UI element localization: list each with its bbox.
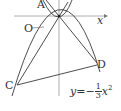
- equation-label: y=−13x2: [70, 83, 112, 100]
- label-O: O: [24, 23, 33, 34]
- label-C: C: [5, 80, 13, 91]
- eq-denominator: 3: [95, 92, 102, 100]
- line-C-D: [17, 65, 97, 85]
- line-A-D: [46, 0, 97, 63]
- origin-point: [58, 15, 61, 18]
- eq-fraction: 13: [95, 83, 102, 100]
- label-D: D: [97, 59, 106, 70]
- origin-leader-line: [32, 27, 44, 28]
- parabola-diagram: A O x C D y=−13x2: [0, 0, 121, 111]
- eq-sign: −: [85, 85, 94, 98]
- label-x-axis: x: [97, 15, 103, 26]
- eq-exponent: 2: [108, 84, 112, 92]
- label-A: A: [37, 0, 45, 10]
- x-axis-arrow-icon: [104, 14, 108, 18]
- line-origin-C: [17, 2, 68, 85]
